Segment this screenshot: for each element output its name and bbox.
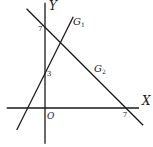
origin-label: O	[47, 111, 55, 121]
x-tick-label-7: 7	[123, 111, 127, 119]
y-tick-label-3: 3	[47, 70, 51, 78]
line-g1-label: G1	[73, 16, 85, 28]
y-tick-label-7: 7	[38, 25, 42, 33]
line-g2-label: G2	[94, 63, 106, 75]
line-g2-subscript: 2	[102, 68, 106, 75]
y-axis-label: Y	[49, 0, 58, 13]
coordinate-diagram: X Y O 7 7 3 G1 G2	[0, 0, 153, 147]
line-g1-name: G	[73, 16, 81, 27]
line-g1-subscript: 1	[81, 21, 85, 28]
x-axis-label: X	[141, 94, 151, 108]
line-g2-name: G	[94, 63, 102, 74]
